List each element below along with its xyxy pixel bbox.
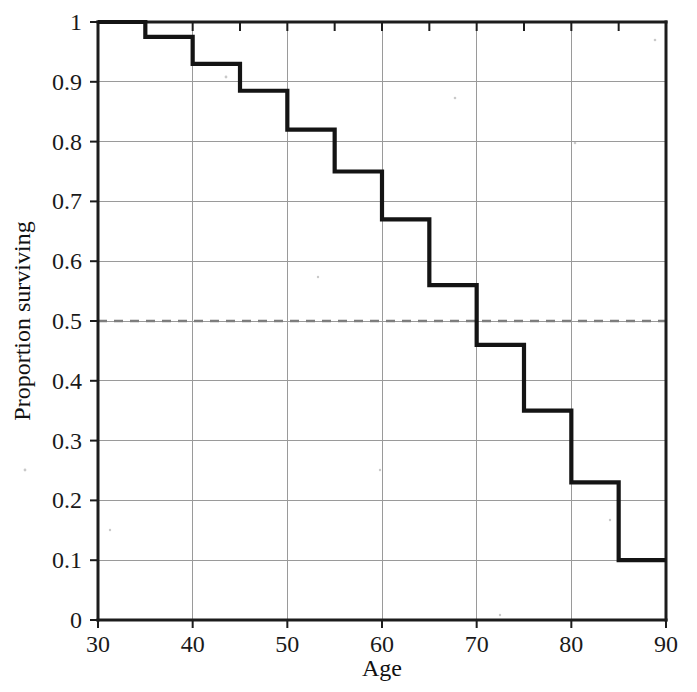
y-axis-tick-labels: 00.10.20.30.40.50.60.70.80.91 xyxy=(52,9,82,633)
y-tick-label: 1 xyxy=(70,9,82,35)
y-tick-label: 0 xyxy=(70,607,82,633)
scan-artifacts xyxy=(24,39,657,617)
y-tick-label: 0.2 xyxy=(52,487,82,513)
x-axis-title: Age xyxy=(362,655,402,681)
x-axis-tick-labels: 30405060708090 xyxy=(86,631,678,657)
x-tick-label: 40 xyxy=(181,631,205,657)
y-tick-label: 0.5 xyxy=(52,308,82,334)
y-tick-label: 0.8 xyxy=(52,129,82,155)
y-axis-title: Proportion surviving xyxy=(9,221,35,420)
y-tick-label: 0.9 xyxy=(52,69,82,95)
chart-canvas: 00.10.20.30.40.50.60.70.80.91 3040506070… xyxy=(0,0,697,692)
x-tick-label: 60 xyxy=(370,631,394,657)
y-tick-label: 0.1 xyxy=(52,547,82,573)
x-tick-label: 70 xyxy=(465,631,489,657)
survival-curve-figure: 00.10.20.30.40.50.60.70.80.91 3040506070… xyxy=(0,0,697,692)
x-tick-label: 30 xyxy=(86,631,110,657)
x-tick-label: 80 xyxy=(559,631,583,657)
y-tick-label: 0.6 xyxy=(52,248,82,274)
x-tick-label: 50 xyxy=(275,631,299,657)
y-tick-label: 0.7 xyxy=(52,188,82,214)
y-tick-label: 0.4 xyxy=(52,368,82,394)
x-tick-label: 90 xyxy=(654,631,678,657)
y-tick-label: 0.3 xyxy=(52,428,82,454)
